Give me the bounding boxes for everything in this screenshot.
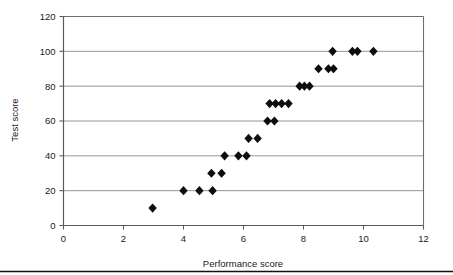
y-tick-label-0: 0: [50, 220, 55, 231]
data-point-marker: [195, 186, 203, 195]
data-point-marker: [328, 47, 336, 56]
data-point-marker: [284, 99, 292, 108]
data-point-marker: [207, 169, 215, 178]
x-tick-label-8: 8: [301, 233, 306, 244]
data-point-marker: [305, 82, 313, 91]
data-point-marker: [270, 116, 278, 125]
gridlines-group: [64, 17, 424, 191]
y-tick-label-20: 20: [45, 185, 56, 196]
y-tick-label-60: 60: [45, 115, 56, 126]
data-point-marker: [179, 186, 187, 195]
y-axis-title: Test score: [9, 98, 20, 141]
x-tick-label-6: 6: [241, 233, 246, 244]
data-point-marker: [148, 203, 156, 212]
x-axis-ticks-group: 024681012: [61, 226, 429, 244]
y-tick-label-80: 80: [45, 81, 56, 92]
data-points-group: [148, 47, 377, 213]
x-tick-label-2: 2: [121, 233, 126, 244]
data-point-marker: [220, 151, 228, 160]
chart-canvas: 024681012 020406080100120 Performance sc…: [0, 0, 453, 275]
data-point-marker: [242, 151, 250, 160]
x-tick-label-0: 0: [61, 233, 66, 244]
data-point-marker: [244, 134, 252, 143]
y-axis-ticks-group: 020406080100120: [40, 11, 64, 231]
y-tick-label-100: 100: [40, 46, 56, 57]
y-tick-label-40: 40: [45, 150, 56, 161]
x-tick-label-12: 12: [418, 233, 429, 244]
data-point-marker: [369, 47, 377, 56]
x-tick-label-10: 10: [358, 233, 369, 244]
data-point-marker: [234, 151, 242, 160]
data-point-marker: [217, 169, 225, 178]
y-tick-label-120: 120: [40, 11, 56, 22]
data-point-marker: [208, 186, 216, 195]
scatter-chart-figure: 024681012 020406080100120 Performance sc…: [0, 0, 453, 275]
x-tick-label-4: 4: [181, 233, 186, 244]
data-point-marker: [353, 47, 361, 56]
data-point-marker: [329, 64, 337, 73]
data-point-marker: [314, 64, 322, 73]
x-axis-title: Performance score: [203, 258, 283, 269]
data-point-marker: [253, 134, 261, 143]
